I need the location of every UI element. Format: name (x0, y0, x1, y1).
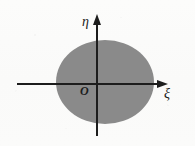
eta-axis-label: η (82, 15, 89, 29)
plot-drawing (0, 0, 195, 146)
eta-axis-arrowhead (93, 14, 101, 25)
origin-label: O (80, 85, 89, 97)
xi-axis-label: ξ (164, 87, 170, 101)
figure-canvas: η ξ O (0, 0, 195, 146)
shaded-ellipse (56, 40, 154, 124)
